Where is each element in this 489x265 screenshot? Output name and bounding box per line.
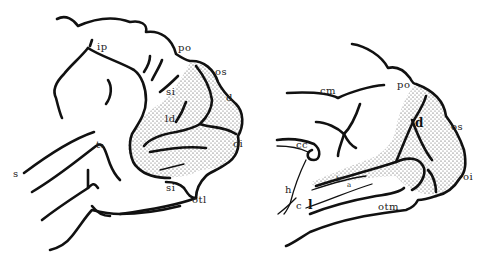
label-h: h <box>285 184 292 195</box>
sylvian-fissure <box>24 132 94 173</box>
stippled-calcarine-region <box>312 84 465 194</box>
label-a: a <box>347 181 351 189</box>
label-si-lower: si <box>166 182 175 193</box>
stippled-occipital-region <box>128 63 242 177</box>
label-b: b <box>336 175 341 183</box>
label-ld: ld <box>165 113 176 124</box>
label-otm: otm <box>378 201 399 212</box>
label-d: d <box>226 92 233 103</box>
ventral-outline <box>50 198 196 250</box>
label-po-medial: po <box>397 79 410 90</box>
label-t1: t₁ <box>96 139 105 150</box>
lateral-view-panel <box>24 17 242 250</box>
label-cm: cm <box>320 85 336 96</box>
label-oi: oi <box>233 138 243 149</box>
label-d-medial: d <box>415 116 424 130</box>
label-ip: ip <box>97 41 108 52</box>
brain-sulci-figure: ip po os si ld d oi t₁ s si otl cm po d … <box>0 0 489 265</box>
label-l: l <box>308 198 313 212</box>
label-os-medial: os <box>451 121 463 132</box>
label-oi-medial: oi <box>463 171 473 182</box>
label-cc: cc <box>296 139 308 150</box>
label-os: os <box>215 66 227 77</box>
label-otl: otl <box>192 194 207 205</box>
label-po: po <box>178 42 191 53</box>
label-si-upper: si <box>166 86 175 97</box>
label-s: s <box>13 168 19 179</box>
label-c: c <box>296 200 302 211</box>
